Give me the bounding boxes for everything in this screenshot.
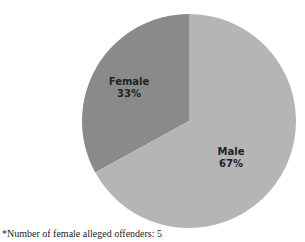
pie-slices (82, 14, 296, 228)
male-slice-label: Male 67% (218, 146, 245, 170)
male-label-percent: 67% (218, 158, 245, 170)
female-label-name: Female (109, 76, 150, 88)
female-label-percent: 33% (109, 88, 150, 100)
pie-chart (0, 0, 305, 242)
male-label-name: Male (218, 146, 245, 158)
female-slice-label: Female 33% (109, 76, 150, 100)
footnote: *Number of female alleged offenders: 5 (2, 228, 162, 239)
